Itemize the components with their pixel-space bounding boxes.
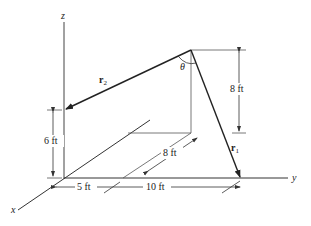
x-axis-label: x [10,204,16,215]
vector-r1 [191,50,240,177]
dim-8ft-vertical-label: 8 ft [230,83,244,94]
dim-10ft-label: 10 ft [146,181,165,192]
vector-r2-label: r2 [99,74,107,87]
dim-6ft-label: 6 ft [44,135,58,146]
tick-5ft-end [104,182,120,193]
dim-5ft-label: 5 ft [77,181,91,192]
y-axis-label: y [291,172,297,183]
dim-8ft-diagonal-label: 8 ft [163,147,177,158]
theta-label: θ [180,61,185,72]
vector-diagram: z y x 8 ft 6 ft 5 ft 10 ft 8 ft r2 r1 θ [0,0,311,226]
z-axis-label: z [60,10,65,21]
vector-r2 [66,50,191,109]
x-axis [18,120,150,210]
vector-r1-label: r1 [231,142,239,155]
